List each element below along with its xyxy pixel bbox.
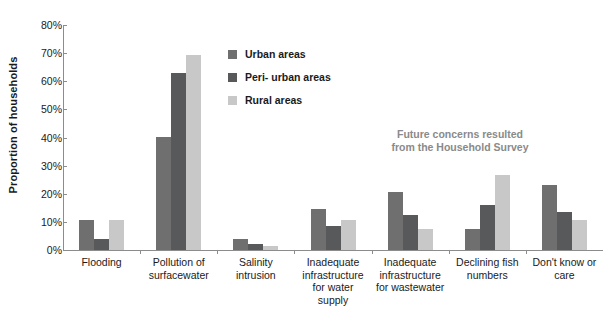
x-tick-label-line: Don't know or <box>526 256 603 269</box>
legend-item: Urban areas <box>228 48 331 60</box>
x-tick-mark <box>526 250 527 254</box>
y-tick-label: 60% <box>28 75 62 87</box>
legend-swatch-icon <box>228 73 237 82</box>
y-tick-label: 70% <box>28 47 62 59</box>
bar <box>341 220 356 250</box>
x-tick-label-line: supply <box>294 294 371 307</box>
x-tick-label: Pollution ofsurfacewater <box>140 256 217 281</box>
x-tick-label: Inadequateinfrastructurefor watersupply <box>294 256 371 306</box>
bar-group <box>156 25 201 250</box>
x-tick-mark <box>294 250 295 254</box>
x-tick-label-line: Salinity <box>217 256 294 269</box>
bar <box>480 205 495 250</box>
x-tick-label-line: for water <box>294 281 371 294</box>
bar <box>263 246 278 250</box>
bar <box>94 239 109 250</box>
bar <box>109 220 124 250</box>
bar <box>403 215 418 250</box>
bar <box>542 185 557 250</box>
bar <box>465 229 480 250</box>
x-tick-mark <box>372 250 373 254</box>
x-tick-label-line: for wastewater <box>372 281 449 294</box>
bar <box>557 212 572 250</box>
y-tick-label: 20% <box>28 188 62 200</box>
bar <box>326 226 341 250</box>
x-tick-label-line: numbers <box>449 269 526 282</box>
x-tick-mark <box>217 250 218 254</box>
x-tick-label: Inadequateinfrastructurefor wastewater <box>372 256 449 294</box>
x-tick-label-line: infrastructure <box>372 269 449 282</box>
bar <box>418 229 433 250</box>
bar <box>248 244 263 250</box>
x-tick-mark <box>140 250 141 254</box>
annotation-line: Future concerns resulted <box>372 128 548 141</box>
x-axis-line <box>63 250 603 251</box>
bar-group <box>542 25 587 250</box>
x-tick-label: Don't know orcare <box>526 256 603 281</box>
x-tick-label: Flooding <box>63 256 140 269</box>
x-tick-label: Declining fishnumbers <box>449 256 526 281</box>
annotation-line: from the Household Survey <box>372 141 548 154</box>
legend: Urban areasPeri- urban areasRural areas <box>228 48 331 117</box>
x-tick-label: Salinityintrusion <box>217 256 294 281</box>
x-tick-label-line: care <box>526 269 603 282</box>
legend-label: Urban areas <box>245 48 306 60</box>
bar <box>171 73 186 250</box>
x-tick-label-line: Inadequate <box>294 256 371 269</box>
y-tick-label: 50% <box>28 103 62 115</box>
x-tick-label-line: Inadequate <box>372 256 449 269</box>
x-tick-label-line: Pollution of <box>140 256 217 269</box>
bar <box>388 192 403 250</box>
y-axis-title-text: Proportion of households <box>7 57 19 194</box>
bar-chart: Proportion of households 0%10%20%30%40%5… <box>0 0 609 327</box>
bar <box>572 220 587 250</box>
y-tick-label: 40% <box>28 132 62 144</box>
y-tick-label: 30% <box>28 160 62 172</box>
bar <box>311 209 326 250</box>
x-tick-mark <box>449 250 450 254</box>
x-tick-label-line: Declining fish <box>449 256 526 269</box>
bar <box>156 137 171 250</box>
x-tick-label-line: infrastructure <box>294 269 371 282</box>
bar-group <box>79 25 124 250</box>
legend-item: Rural areas <box>228 94 331 106</box>
y-axis-title: Proportion of households <box>2 0 24 250</box>
legend-label: Peri- urban areas <box>245 71 331 83</box>
bar <box>495 175 510 250</box>
bar <box>233 239 248 250</box>
y-tick-label: 80% <box>28 19 62 31</box>
x-tick-label-line: Flooding <box>63 256 140 269</box>
y-tick-label: 10% <box>28 216 62 228</box>
legend-swatch-icon <box>228 50 237 59</box>
bar <box>79 220 94 250</box>
x-tick-label-line: intrusion <box>217 269 294 282</box>
y-tick-label: 0% <box>28 244 62 256</box>
legend-swatch-icon <box>228 96 237 105</box>
future-concerns-note: Future concerns resultedfrom the Househo… <box>372 128 548 154</box>
bar <box>186 55 201 250</box>
legend-label: Rural areas <box>245 94 302 106</box>
x-tick-label-line: surfacewater <box>140 269 217 282</box>
legend-item: Peri- urban areas <box>228 71 331 83</box>
